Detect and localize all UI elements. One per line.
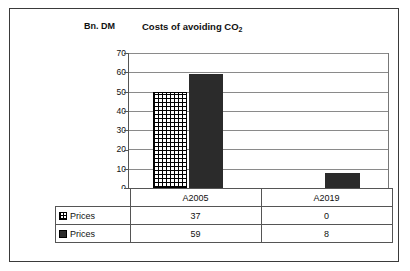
y-tick-label: 30 [100,125,126,135]
plot-area [129,53,389,188]
legend-label: Prices [70,229,95,239]
y-tick-mark [124,130,128,131]
y-tick-mark [124,150,128,151]
y-axis-tick-labels: 70 60 50 40 30 20 10 0 [96,53,126,188]
table-row: Prices 59 8 [56,225,393,243]
y-tick-mark [124,111,128,112]
legend-cell-solid: Prices [56,225,131,243]
table-header-row: A2005 A2019 [56,189,393,207]
bar-a2019-prices-solid [325,173,360,188]
y-tick-mark [124,92,128,93]
gridline [129,53,388,54]
checkered-swatch-icon [59,212,67,220]
y-tick-label: 60 [100,67,126,77]
chart-figure: Bn. DM Costs of avoiding CO2 70 60 50 40… [9,8,399,262]
table-header-a2005: A2005 [130,189,261,207]
y-tick-label: 40 [100,106,126,116]
legend-cell-checkered: Prices [56,207,131,225]
table-header-a2019: A2019 [261,189,392,207]
cell-prices2-a2005: 59 [130,225,261,243]
chart-data-table: A2005 A2019 Prices 37 0 Prices 59 8 [55,188,393,243]
y-tick-mark [124,53,128,54]
cell-prices1-a2019: 0 [261,207,392,225]
cell-prices2-a2019: 8 [261,225,392,243]
y-tick-mark [124,72,128,73]
legend-label: Prices [70,211,95,221]
y-tick-label: 70 [100,48,126,58]
y-tick-label: 20 [100,144,126,154]
solid-swatch-icon [59,230,67,238]
y-tick-label: 50 [100,87,126,97]
gridline [129,72,388,73]
cell-prices1-a2005: 37 [130,207,261,225]
table-corner-cell [56,189,131,207]
table-row: Prices 37 0 [56,207,393,225]
y-tick-mark [124,169,128,170]
bar-a2005-prices-checkered [153,92,187,188]
bar-a2005-prices-solid [189,74,223,188]
y-tick-label: 10 [100,164,126,174]
